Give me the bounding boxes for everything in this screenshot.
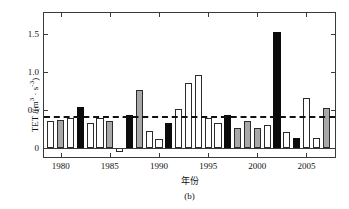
bar-1983 xyxy=(87,123,94,148)
x-tick-label-1980: 1980 xyxy=(52,161,70,171)
bar-1996 xyxy=(214,123,221,148)
x-tick-mark-2000 xyxy=(257,153,258,157)
figure-caption: (b) xyxy=(43,191,336,201)
bar-1979 xyxy=(47,121,54,148)
bar-2006 xyxy=(313,138,320,148)
y-tick-label-0: 0 xyxy=(35,143,40,152)
mean-reference-line xyxy=(44,116,335,118)
x-tick-label-1990: 1990 xyxy=(150,161,168,171)
bar-1989 xyxy=(146,131,153,148)
y-axis-title-close: ) xyxy=(30,77,40,80)
x-axis-title: 年份 xyxy=(43,176,336,186)
zero-baseline xyxy=(44,148,335,149)
bar-2003 xyxy=(283,132,290,148)
bar-2002 xyxy=(273,32,280,148)
x-tick-label-1985: 1985 xyxy=(101,161,119,171)
y-tick-mark-0 xyxy=(44,148,48,149)
x-tick-mark-top-1980 xyxy=(61,13,62,17)
x-tick-mark-top-2000 xyxy=(257,13,258,17)
plot-area: 00.51.01.5198019851990199520002005 xyxy=(43,12,336,158)
bar-1982 xyxy=(77,107,84,148)
bar-1998 xyxy=(234,128,241,148)
y-tick-mark-0.5 xyxy=(44,110,48,111)
bar-1980 xyxy=(57,120,64,148)
x-tick-mark-top-1985 xyxy=(110,13,111,17)
bar-1992 xyxy=(175,109,182,148)
bar-1988 xyxy=(136,90,143,148)
x-tick-label-1995: 1995 xyxy=(199,161,217,171)
bar-1990 xyxy=(155,139,162,148)
y-tick-mark-1.5 xyxy=(44,34,48,35)
x-tick-mark-top-2005 xyxy=(306,13,307,17)
x-tick-mark-1990 xyxy=(159,153,160,157)
x-tick-label-2005: 2005 xyxy=(297,161,315,171)
bar-2001 xyxy=(264,125,271,148)
bar-2007 xyxy=(323,108,330,147)
bar-1985 xyxy=(106,121,113,148)
bars-layer xyxy=(44,13,335,157)
x-tick-mark-2005 xyxy=(306,153,307,157)
bar-1991 xyxy=(165,123,172,148)
bar-2004 xyxy=(293,138,300,148)
x-tick-mark-top-1995 xyxy=(208,13,209,17)
y-tick-label-1.5: 1.5 xyxy=(28,30,39,39)
bar-1997 xyxy=(224,115,231,148)
bar-1995 xyxy=(205,118,212,148)
figure-panel-b: TET /(m3 · s-3) 00.51.01.519801985199019… xyxy=(0,0,349,209)
y-tick-mark-1.0 xyxy=(44,72,48,73)
bar-1981 xyxy=(67,118,74,148)
y-axis-title-middot: · s xyxy=(30,86,40,97)
bar-1994 xyxy=(195,75,202,148)
bar-2005 xyxy=(303,98,310,148)
x-tick-mark-1980 xyxy=(61,153,62,157)
y-tick-mark-right-0 xyxy=(331,148,335,149)
bar-2000 xyxy=(254,128,261,148)
bar-1984 xyxy=(96,118,103,148)
bar-1999 xyxy=(244,121,251,148)
x-tick-mark-1995 xyxy=(208,153,209,157)
y-tick-mark-right-1.5 xyxy=(331,34,335,35)
y-tick-label-1.0: 1.0 xyxy=(28,68,39,77)
x-tick-mark-top-1990 xyxy=(159,13,160,17)
y-axis-title-exp-1: 3 xyxy=(28,97,36,101)
x-tick-label-2000: 2000 xyxy=(248,161,266,171)
y-tick-mark-right-1.0 xyxy=(331,72,335,73)
y-tick-label-0.5: 0.5 xyxy=(28,106,39,115)
y-tick-mark-right-0.5 xyxy=(331,110,335,111)
bar-1987 xyxy=(126,115,133,148)
x-tick-mark-1985 xyxy=(110,153,111,157)
